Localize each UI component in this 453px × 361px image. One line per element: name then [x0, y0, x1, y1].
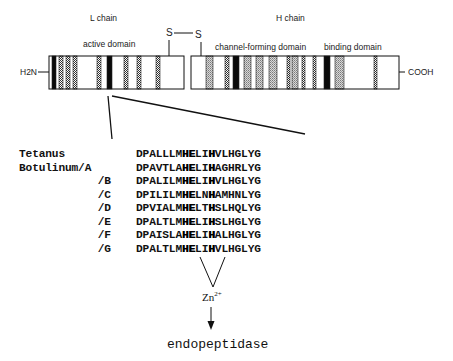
zinc-motif-residue: H: [208, 202, 215, 214]
dotted-stripe: [137, 56, 141, 89]
sequence-segment: LI: [195, 216, 208, 228]
grey-stripe: [269, 56, 277, 89]
sequence-row: DPALLLMHELIHVLHGLYG: [136, 148, 261, 162]
species-name: /D: [19, 202, 111, 216]
zinc-motif-residue: HE: [182, 229, 195, 241]
n-terminus-label: H2N: [20, 67, 37, 77]
dotted-stripe: [73, 56, 77, 89]
grey-stripe: [256, 56, 263, 89]
zinc-motif-residue: HE: [182, 175, 195, 187]
black-stripe: [52, 56, 56, 89]
channel-forming-domain-label: channel-forming domain: [215, 42, 306, 52]
sequence-row: DPAVTLAHELIHAGHRLYG: [136, 162, 261, 176]
dotted-stripe: [156, 56, 160, 89]
zinc-motif-residue: H: [208, 189, 215, 201]
zinc-motif-residue: H: [208, 162, 215, 174]
sequence-segment: DPAVTLA: [136, 162, 182, 174]
zinc-motif-residue: HE: [182, 148, 195, 160]
zinc-motif-residue: HE: [182, 162, 195, 174]
sequence-row: DPALTLMHELIHVLHGLYG: [136, 243, 261, 257]
dotted-stripe: [59, 56, 63, 89]
species-name: /C: [19, 189, 111, 203]
endopeptidase-label: endopeptidase: [167, 337, 268, 352]
dotted-stripe: [66, 56, 70, 89]
species-name: Botulinum/A: [19, 162, 111, 176]
sequence-segment: LI: [195, 162, 208, 174]
species-name: Tetanus: [19, 148, 111, 162]
zinc-ion-label: Zn2+: [202, 290, 222, 303]
h-chain-bar: [191, 56, 399, 89]
sequence-row: DPAISLAHELIHALHGLYG: [136, 229, 261, 243]
zinc-motif-residue: HE: [182, 216, 195, 228]
sequence-segment: DPILILM: [136, 189, 182, 201]
grey-stripe: [244, 56, 251, 89]
zinc-symbol: Zn: [202, 291, 214, 303]
c-terminus-label: COOH: [408, 67, 434, 77]
dotted-stripe: [374, 56, 377, 89]
sequence-segment: SLHGLYG: [215, 216, 261, 228]
zinc-motif-residue: H: [208, 216, 215, 228]
dotted-stripe: [124, 56, 128, 89]
sequence-segment: DPAISLA: [136, 229, 182, 241]
disulfide-s-left: S: [166, 27, 173, 38]
black-stripe: [107, 56, 112, 89]
l-chain-label: L chain: [90, 13, 117, 23]
sequence-segment: LI: [195, 148, 208, 160]
arrow-to-endopeptidase: [208, 307, 215, 330]
sequence-segment: DPALILM: [136, 175, 182, 187]
zinc-motif-residue: HE: [182, 189, 195, 201]
zinc-motif-residue: H: [208, 243, 215, 255]
species-name: /E: [19, 216, 111, 230]
dotted-stripe: [97, 56, 101, 89]
grey-stripe: [335, 56, 344, 89]
species-name: /F: [19, 229, 111, 243]
species-name: /G: [19, 243, 111, 257]
sequence-row: DPALILMHELIHVLHGLYG: [136, 175, 261, 189]
sequence-segment: ALHGLYG: [215, 229, 261, 241]
sequence-row: DPILILMHELNHAMHNLYG: [136, 189, 261, 203]
l-chain-bar: [49, 56, 184, 89]
grey-stripe: [206, 56, 213, 89]
dotted-stripe: [313, 56, 316, 89]
zinc-motif-residue: H: [208, 148, 215, 160]
sequence-segment: LI: [195, 229, 208, 241]
dotted-stripe: [287, 56, 290, 89]
sequence-row: DPVIALMHELTHSLHQLYG: [136, 202, 261, 216]
zinc-motif-residue: HE: [182, 243, 195, 255]
black-stripe: [233, 56, 239, 89]
sequence-segment: DPALTLM: [136, 216, 182, 228]
sequence-segment: AMHNLYG: [215, 189, 261, 201]
black-stripe: [324, 56, 330, 89]
zinc-binding-lines: [200, 257, 225, 287]
disulfide-s-right: S: [195, 29, 202, 40]
sequence-segment: DPALLLM: [136, 148, 182, 160]
sequence-segment: DPALTLM: [136, 243, 182, 255]
zoom-callout-lines: [108, 96, 305, 139]
sequence-segment: SLHQLYG: [215, 202, 261, 214]
zinc-motif-residue: HE: [182, 202, 195, 214]
sequence-segment: VLHGLYG: [215, 243, 261, 255]
sequence-segment: LN: [195, 189, 208, 201]
species-name-column: TetanusBotulinum/A /B /C /D /E /F /G: [19, 148, 111, 256]
sequence-segment: VLHGLYG: [215, 148, 261, 160]
sequence-segment: AGHRLYG: [215, 162, 261, 174]
binding-domain-label: binding domain: [324, 42, 382, 52]
sequence-segment: VLHGLYG: [215, 175, 261, 187]
sequence-segment: DPVIALM: [136, 202, 182, 214]
sequence-row: DPALTLMHELIHSLHGLYG: [136, 216, 261, 230]
h-chain-label: H chain: [276, 13, 305, 23]
species-name: /B: [19, 175, 111, 189]
sequence-segment: LI: [195, 243, 208, 255]
dotted-stripe: [225, 56, 229, 89]
zinc-motif-residue: H: [208, 229, 215, 241]
sequence-segment: LT: [195, 202, 208, 214]
dotted-stripe: [302, 56, 305, 89]
grey-stripe: [292, 56, 298, 89]
sequence-alignment: DPALLLMHELIHVLHGLYGDPAVTLAHELIHAGHRLYGDP…: [136, 148, 261, 256]
zinc-charge: 2+: [214, 290, 221, 298]
zinc-motif-residue: H: [208, 175, 215, 187]
sequence-segment: LI: [195, 175, 208, 187]
active-domain-label: active domain: [83, 39, 135, 49]
